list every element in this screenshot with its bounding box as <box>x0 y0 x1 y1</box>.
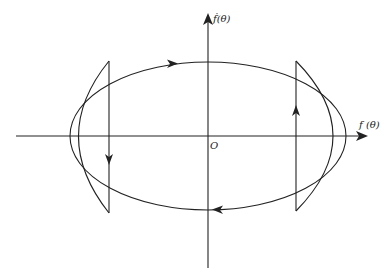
top-trajectory-arrow-icon <box>167 60 178 69</box>
left-lens-region <box>79 61 110 213</box>
phase-diagram <box>0 0 390 280</box>
x-axis-label: f (θ) <box>359 120 380 130</box>
origin-label: O <box>210 141 218 151</box>
y-axis-label: ḟ(θ) <box>213 14 231 24</box>
